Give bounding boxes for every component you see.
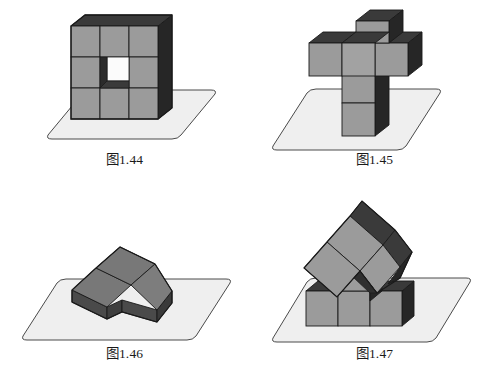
figure-caption-147: 图1.47 xyxy=(250,342,499,362)
cube-top-face xyxy=(71,15,172,26)
figure-illustration-145 xyxy=(250,0,499,160)
column-front-faces xyxy=(342,70,375,136)
centre-cube-front-face xyxy=(342,43,375,76)
figure-caption-144: 图1.44 xyxy=(0,148,249,168)
left-arm-front-face xyxy=(309,43,342,76)
figure-panel-147: 图1.47 xyxy=(250,190,499,380)
base-row-front-faces xyxy=(306,291,402,326)
figure-panel-144: 图1.44 xyxy=(0,0,249,190)
figure-panel-145: 图1.45 xyxy=(250,0,499,190)
figure-panel-146: 图1.46 xyxy=(0,190,249,380)
figure-illustration-144 xyxy=(0,0,249,160)
cube-side-face xyxy=(158,15,172,119)
figure-illustration-147 xyxy=(250,190,499,350)
figure-illustration-146 xyxy=(0,190,249,350)
hole-back-face xyxy=(107,57,129,81)
figure-caption-146: 图1.46 xyxy=(0,342,249,362)
right-arm-front-face xyxy=(375,43,408,76)
figure-sheet: 图1.44 图1.45 xyxy=(0,0,499,380)
figure-caption-145: 图1.45 xyxy=(250,148,499,168)
